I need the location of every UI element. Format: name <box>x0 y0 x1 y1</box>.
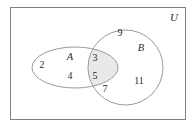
element-7: 7 <box>103 84 108 94</box>
venn-diagram-figure: U A B 2 4 3 5 9 7 11 <box>0 0 196 127</box>
element-2: 2 <box>40 60 45 70</box>
set-b-label: B <box>138 43 144 54</box>
set-a-label: A <box>67 52 73 63</box>
element-5: 5 <box>93 71 98 81</box>
element-3: 3 <box>93 53 98 63</box>
element-4: 4 <box>68 71 73 81</box>
venn-diagram-canvas <box>0 0 196 127</box>
element-9: 9 <box>118 28 123 38</box>
universe-label: U <box>170 12 178 23</box>
element-11: 11 <box>134 76 144 86</box>
